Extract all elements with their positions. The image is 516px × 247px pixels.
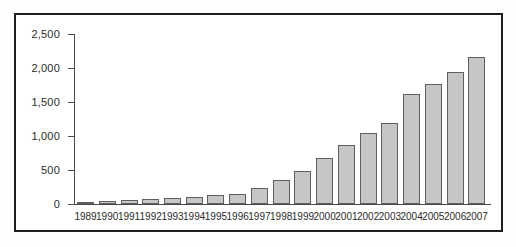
bar-2004	[403, 94, 420, 204]
bar-2000	[316, 158, 333, 204]
y-axis-tick	[68, 136, 74, 137]
bar-chart-plot-area: 05001,0001,5002,0002,5001989199019911992…	[0, 0, 516, 247]
bar-1989	[77, 202, 94, 204]
bar-1996	[229, 194, 246, 204]
y-axis-tick	[68, 204, 74, 205]
y-axis-tick	[68, 170, 74, 171]
bar-2001	[338, 145, 355, 204]
y-axis-tick-label: 2,000	[18, 62, 60, 74]
bar-1998	[273, 180, 290, 204]
bar-2005	[425, 84, 442, 204]
y-axis-tick-label: 1,000	[18, 130, 60, 142]
bar-1993	[164, 198, 181, 204]
bar-2002	[360, 133, 377, 204]
y-axis-line	[74, 34, 75, 204]
y-axis-tick-label: 2,500	[18, 28, 60, 40]
bar-2006	[447, 72, 464, 204]
y-axis-tick-label: 1,500	[18, 96, 60, 108]
bar-1990	[99, 201, 116, 204]
bar-1997	[251, 188, 268, 204]
y-axis-tick	[68, 34, 74, 35]
figure-page: 05001,0001,5002,0002,5001989199019911992…	[0, 0, 516, 247]
bar-1999	[294, 171, 311, 204]
x-axis-line	[74, 204, 491, 205]
bar-1991	[121, 200, 138, 204]
bar-2003	[381, 123, 398, 204]
y-axis-tick	[68, 68, 74, 69]
bar-1995	[207, 195, 224, 204]
y-axis-tick-label: 0	[18, 198, 60, 210]
y-axis-tick-label: 500	[18, 164, 60, 176]
bar-2007	[468, 57, 485, 204]
bar-1992	[142, 199, 159, 204]
y-axis-tick	[68, 102, 74, 103]
x-axis-label-2007: 2007	[464, 211, 490, 222]
bar-1994	[186, 197, 203, 204]
